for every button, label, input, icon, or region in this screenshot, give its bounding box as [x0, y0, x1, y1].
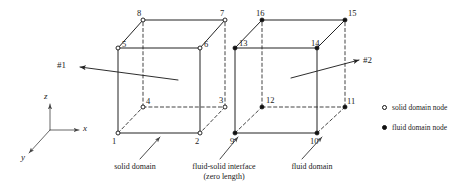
edge-13-16 [235, 20, 262, 48]
edge-11-10 [317, 107, 345, 133]
node-3-marker [223, 105, 227, 109]
node-11-marker [343, 105, 347, 109]
node-14-marker [315, 46, 319, 50]
node-1-marker [116, 131, 120, 135]
node-7-marker [223, 18, 227, 22]
node-2-marker [198, 131, 202, 135]
node-5-marker [116, 46, 120, 50]
legend-solid-domain-node: solid domain node [382, 104, 447, 112]
open-circle-icon [382, 105, 387, 110]
callout-solid-domain-arrow [140, 137, 160, 159]
node-6-marker [198, 46, 202, 50]
node-9-marker [233, 131, 237, 135]
figure-container: 12345678910111213141516 zxy #1#2 solid d… [0, 0, 474, 189]
node-15-marker [343, 18, 347, 22]
node-12-marker [260, 105, 264, 109]
callout-arrows [140, 137, 322, 159]
axis-y [29, 130, 50, 153]
legend-solid-domain-node-label: solid domain node [392, 104, 447, 112]
element-1-arrow [80, 67, 178, 80]
legend-fluid-domain-node-label: fluid domain node [392, 124, 447, 132]
filled-circle-icon [382, 125, 387, 130]
edge-5-8 [118, 20, 143, 48]
edge-14-15 [317, 20, 345, 48]
node-10-marker [315, 131, 319, 135]
node-4-marker [141, 105, 145, 109]
legend-fluid-domain-node: fluid domain node [382, 124, 447, 132]
edge-3-2 [200, 107, 225, 133]
element-2-arrow [291, 60, 359, 78]
edge-9-12 [235, 107, 262, 133]
callout-fluid-solid-interface-arrow [220, 137, 238, 159]
node-16-marker [260, 18, 264, 22]
mesh-diagram [0, 0, 474, 189]
node-8-marker [141, 18, 145, 22]
coordinate-axes [29, 104, 79, 153]
node-13-marker [233, 46, 237, 50]
edge-6-7 [200, 20, 225, 48]
callout-fluid-domain-arrow [302, 137, 322, 159]
edge-1-4 [118, 107, 143, 133]
